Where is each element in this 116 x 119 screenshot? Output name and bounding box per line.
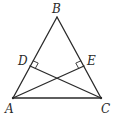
label-B: B [52,3,61,15]
segment-CD [30,66,101,98]
label-D: D [18,55,28,67]
label-C: C [101,103,110,115]
point-A-dot [12,97,14,99]
segment-AE [13,66,84,98]
point-C-dot [100,97,102,99]
label-E: E [87,55,96,67]
geometry-diagram: B D E A C [0,0,116,119]
label-A: A [5,103,14,115]
